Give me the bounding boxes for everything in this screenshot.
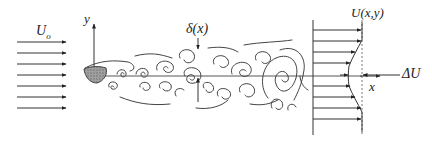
velocity-profile-label: U(x,y) [351,6,384,19]
y-axis-label: y [84,12,90,25]
freestream-symbol: U [36,23,46,38]
x-axis-label: x [369,80,375,93]
freestream-velocity-label: Uo [36,24,51,41]
velocity-profile [313,20,400,135]
velocity-deficit-label: ΔU [402,67,420,81]
turbulent-eddies [85,40,308,110]
freestream-arrows [17,42,66,108]
thickness-label: δ(x) [186,22,208,36]
freestream-subscript: o [46,31,51,41]
wake-flow-diagram [0,0,432,145]
bluff-body [84,67,107,83]
